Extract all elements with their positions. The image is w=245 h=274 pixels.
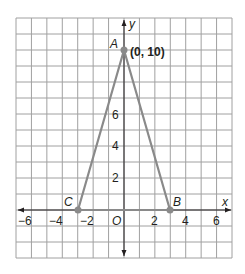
x-tick-4: 4: [182, 214, 189, 228]
y-axis-up-arrow-icon: [122, 20, 127, 26]
point-a-label: A: [109, 37, 118, 51]
point-c: [75, 207, 82, 214]
origin-label: O: [112, 214, 121, 228]
x-axis-label: x: [221, 195, 229, 209]
y-axis-label: y: [128, 17, 136, 31]
x-axis-left-arrow-icon: [18, 208, 24, 213]
x-tick-6: 6: [213, 214, 220, 228]
y-tick-6: 6: [112, 108, 119, 122]
coordinate-plane: y x A (0, 10) B C O −6 −4 −2 2 4 6 2 4 6: [0, 0, 245, 274]
x-tick-neg2: −2: [80, 214, 94, 228]
point-a-coords: (0, 10): [130, 45, 165, 59]
point-b-label: B: [173, 195, 181, 209]
x-tick-neg4: −4: [49, 214, 63, 228]
point-a: [121, 47, 128, 54]
point-c-label: C: [64, 195, 73, 209]
y-tick-2: 2: [112, 171, 119, 185]
x-tick-neg6: −6: [18, 214, 32, 228]
y-axis-down-arrow-icon: [122, 250, 127, 256]
x-tick-2: 2: [151, 214, 158, 228]
y-tick-4: 4: [112, 139, 119, 153]
